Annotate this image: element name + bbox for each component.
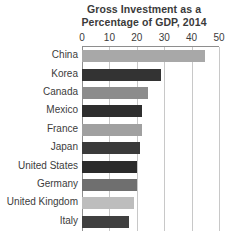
y-axis-category-labels: ChinaKoreaCanadaMexicoFranceJapanUnited … — [0, 46, 78, 230]
y-axis-label-canada: Canada — [0, 86, 78, 98]
bar-china — [82, 50, 205, 62]
chart-title-line-1: Gross Investment as a — [56, 3, 232, 16]
bar-canada — [82, 87, 148, 99]
x-axis-tick-10: 10 — [104, 31, 115, 45]
bar-row — [82, 194, 219, 212]
y-axis-label-china: China — [0, 49, 78, 61]
bar-row — [82, 84, 219, 102]
bar-united-kingdom — [82, 197, 134, 209]
bar-row — [82, 176, 219, 194]
y-axis-label-germany: Germany — [0, 178, 78, 190]
y-axis-label-korea: Korea — [0, 68, 78, 80]
y-axis-label-mexico: Mexico — [0, 104, 78, 116]
bar-germany — [82, 179, 137, 191]
bar-korea — [82, 69, 161, 81]
bar-row — [82, 47, 219, 65]
y-axis-label-italy: Italy — [0, 215, 78, 227]
bar-row — [82, 139, 219, 157]
x-axis-tick-0: 0 — [79, 31, 85, 45]
x-axis-tick-30: 30 — [159, 31, 170, 45]
bar-mexico — [82, 105, 142, 117]
x-axis-tick-labels: 01020304050 — [0, 31, 235, 45]
bar-row — [82, 102, 219, 120]
x-axis-tick-50: 50 — [213, 31, 224, 45]
bar-chart-figure: Gross Investment as a Percentage of GDP,… — [0, 0, 235, 236]
y-axis-label-united-states: United States — [0, 160, 78, 172]
bar-united-states — [82, 161, 137, 173]
bar-row — [82, 213, 219, 231]
bar-row — [82, 157, 219, 175]
chart-title: Gross Investment as a Percentage of GDP,… — [56, 3, 232, 29]
gridline-50 — [219, 47, 220, 231]
y-axis-label-united-kingdom: United Kingdom — [0, 196, 78, 208]
chart-title-line-2: Percentage of GDP, 2014 — [56, 16, 232, 29]
bar-france — [82, 124, 142, 136]
plot-area — [82, 46, 219, 231]
bar-japan — [82, 142, 140, 154]
bars-layer — [82, 47, 219, 231]
x-axis-tick-40: 40 — [186, 31, 197, 45]
bar-row — [82, 121, 219, 139]
bar-row — [82, 65, 219, 83]
bar-italy — [82, 216, 129, 228]
y-axis-label-france: France — [0, 123, 78, 135]
x-axis-tick-20: 20 — [131, 31, 142, 45]
y-axis-label-japan: Japan — [0, 141, 78, 153]
